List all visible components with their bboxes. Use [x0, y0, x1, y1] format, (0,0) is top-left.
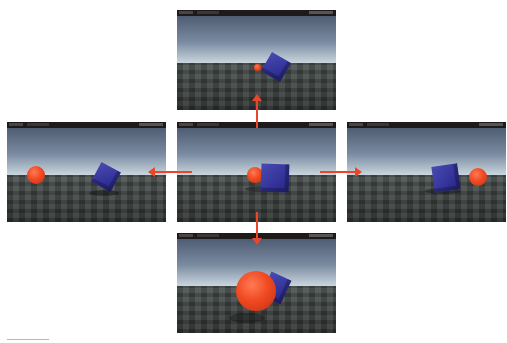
arrow-right-head-icon	[355, 167, 362, 177]
arrow-down-head-icon	[252, 238, 262, 245]
panel-center-view	[177, 122, 336, 222]
shadow	[89, 190, 119, 196]
sky	[177, 16, 336, 63]
sphere	[469, 168, 487, 186]
arrow-down	[256, 212, 258, 240]
panel-bottom-view	[177, 233, 336, 333]
footnote-rule	[7, 339, 49, 340]
arrow-up-head-icon	[252, 94, 262, 101]
panel-left-view	[7, 122, 166, 222]
arrow-right	[320, 171, 356, 173]
arrow-left-head-icon	[148, 167, 155, 177]
cube	[261, 164, 290, 193]
sphere	[27, 166, 45, 184]
shadow	[229, 313, 265, 323]
sphere	[236, 271, 276, 311]
panel-right-view	[347, 122, 506, 222]
sky	[347, 128, 506, 175]
sphere	[254, 64, 261, 71]
arrow-up	[256, 98, 258, 128]
arrow-left	[152, 171, 192, 173]
cube	[431, 163, 460, 192]
